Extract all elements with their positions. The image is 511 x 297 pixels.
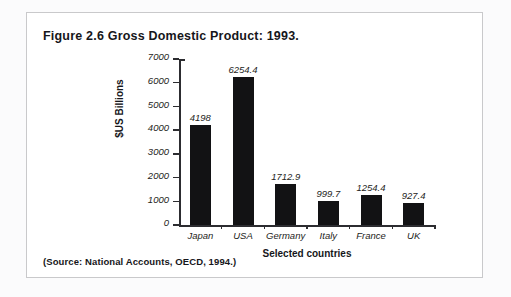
x-axis-tick (264, 225, 266, 229)
figure-card: Figure 2.6 Gross Domestic Product: 1993.… (26, 12, 483, 278)
x-axis-tick (349, 225, 351, 229)
x-axis-category-label: France (356, 230, 386, 241)
bar: 927.4 (403, 203, 424, 225)
bar-value-label: 4198 (190, 112, 211, 123)
bar-value-label: 6254.4 (228, 64, 257, 75)
y-axis-tick-label: 0 (164, 217, 169, 228)
y-axis-tick-label: 3000 (148, 146, 169, 157)
figure-title: Figure 2.6 Gross Domestic Product: 1993. (43, 29, 299, 43)
bar: 999.7 (318, 201, 339, 225)
y-axis-tick-label: 4000 (148, 122, 169, 133)
y-axis-tick-label: 7000 (148, 51, 169, 62)
x-axis-category-label: USA (233, 230, 253, 241)
x-axis-category-label: UK (407, 230, 420, 241)
bar-value-label: 1254.4 (356, 182, 385, 193)
y-axis-tick-label: 6000 (148, 75, 169, 86)
bar-value-label: 999.7 (316, 188, 340, 199)
x-axis-tick (434, 225, 436, 229)
y-axis-tick-label: 5000 (148, 99, 169, 110)
y-axis-title: $US Billions (114, 54, 125, 164)
y-axis-tick: 7000 (173, 58, 179, 60)
bar: 6254.4 (233, 77, 254, 225)
x-axis-category-label: Japan (187, 230, 213, 241)
x-axis-tick (221, 225, 223, 229)
y-axis-tick-label: 1000 (148, 194, 169, 205)
bar-chart: $US Billions 010002000300040005000600070… (82, 51, 472, 251)
y-axis-tick: 6000 (173, 82, 179, 84)
y-axis-top-cap (179, 59, 185, 61)
bar: 1254.4 (361, 195, 382, 225)
y-axis-tick: 5000 (173, 106, 179, 108)
bar: 4198 (190, 125, 211, 225)
x-axis-tick (306, 225, 308, 229)
x-axis-category-label: Italy (320, 230, 337, 241)
y-axis-tick: 1000 (173, 201, 179, 203)
bar-value-label: 927.4 (402, 190, 426, 201)
y-axis-tick: 0 (173, 224, 179, 226)
bar-value-label: 1712.9 (271, 171, 300, 182)
y-axis-line (179, 59, 181, 225)
bar: 1712.9 (275, 184, 296, 225)
source-note: (Source: National Accounts, OECD, 1994.) (43, 256, 236, 267)
y-axis-tick: 3000 (173, 153, 179, 155)
y-axis-tick: 4000 (173, 129, 179, 131)
plot-area: 01000200030004000500060007000 41986254.4… (179, 59, 435, 225)
x-axis-category-label: Germany (266, 230, 305, 241)
y-axis-tick: 2000 (173, 177, 179, 179)
y-axis-tick-label: 2000 (148, 170, 169, 181)
x-axis-tick (392, 225, 394, 229)
